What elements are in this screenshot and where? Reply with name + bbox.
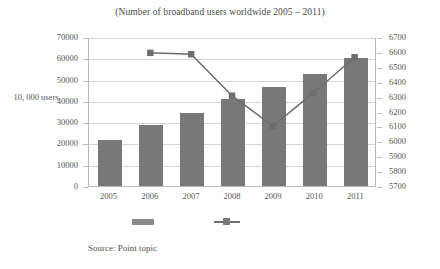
right-axis-tick-mark [377, 127, 382, 128]
legend-line-marker-icon [223, 218, 230, 225]
line-path [150, 53, 354, 126]
left-axis-tick-mark [83, 144, 88, 145]
right-axis-tick-label: 5900 [389, 151, 437, 161]
right-axis-tick-mark [377, 98, 382, 99]
chart-figure: (Number of broadband users worldwide 200… [0, 0, 440, 269]
category-axis-tick-label: 2006 [129, 191, 171, 201]
left-axis-tick-mark [83, 187, 88, 188]
right-axis-tick-label: 6100 [389, 121, 437, 131]
right-axis-tick-label: 6700 [389, 32, 437, 42]
left-axis-tick-label: 60000 [20, 53, 78, 63]
right-axis-tick-mark [377, 53, 382, 54]
left-axis-tick-label: 70000 [20, 32, 78, 42]
source-note: Source: Point topic [88, 243, 157, 253]
right-axis-tick-mark [377, 142, 382, 143]
left-axis-tick-mark [83, 59, 88, 60]
line-marker [147, 50, 153, 56]
right-axis-tick-mark [377, 38, 382, 39]
plot-area [88, 38, 376, 187]
right-axis-tick-label: 6600 [389, 47, 437, 57]
right-axis-tick-label: 6500 [389, 62, 437, 72]
category-axis-tick-label: 2005 [88, 191, 130, 201]
right-axis-tick-label: 5800 [389, 166, 437, 176]
line-marker [188, 51, 194, 57]
right-axis-tick-label: 6300 [389, 92, 437, 102]
left-axis-tick-label: 10000 [20, 160, 78, 170]
right-axis-tick-label: 5700 [389, 181, 437, 191]
left-axis-tick-mark [83, 38, 88, 39]
category-axis-tick-label: 2009 [252, 191, 294, 201]
left-axis-tick-label: 20000 [20, 138, 78, 148]
line-marker [310, 90, 316, 96]
category-axis-tick-label: 2011 [334, 191, 376, 201]
right-axis-tick-label: 6400 [389, 77, 437, 87]
right-axis-tick-label: 6000 [389, 136, 437, 146]
left-axis-tick-label: 40000 [20, 96, 78, 106]
left-axis-tick-mark [83, 81, 88, 82]
right-axis-tick-mark [377, 113, 382, 114]
right-axis-tick-mark [377, 68, 382, 69]
left-axis-tick-label: 30000 [20, 117, 78, 127]
right-axis-tick-mark [377, 157, 382, 158]
left-axis-tick-mark [83, 123, 88, 124]
left-axis-tick-mark [83, 166, 88, 167]
chart-title: (Number of broadband users worldwide 200… [0, 7, 440, 17]
category-axis-tick-label: 2008 [211, 191, 253, 201]
category-axis-tick-label: 2010 [293, 191, 335, 201]
legend-bar-swatch-icon [132, 219, 154, 225]
left-axis-tick-mark [83, 102, 88, 103]
category-axis-tick-label: 2007 [170, 191, 212, 201]
left-axis-tick-label: 50000 [20, 75, 78, 85]
right-axis-tick-label: 6200 [389, 107, 437, 117]
right-axis-tick-mark [377, 187, 382, 188]
chart-legend [88, 215, 376, 229]
left-axis-tick-label: 0 [20, 181, 78, 191]
line-marker [351, 54, 357, 60]
line-marker [229, 93, 235, 99]
line-series [89, 38, 375, 186]
line-marker [270, 123, 276, 129]
right-axis-tick-mark [377, 83, 382, 84]
right-axis-tick-mark [377, 172, 382, 173]
